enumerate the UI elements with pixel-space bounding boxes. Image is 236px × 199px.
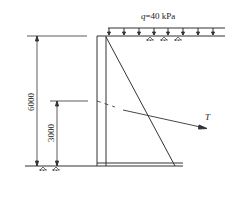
failure-plane-line <box>106 37 175 166</box>
dimension-anchor-height: 3000 <box>46 101 88 166</box>
load-label: q=40 kPa <box>141 11 175 21</box>
base-line <box>25 163 183 171</box>
soil-hatch-icon <box>39 167 60 171</box>
diagram-canvas: q=40 kPa <box>0 0 236 199</box>
ground-surface-top <box>97 36 225 41</box>
load-arrows <box>108 28 215 35</box>
retaining-wall <box>97 36 106 166</box>
soil-hatch-icon <box>146 37 182 41</box>
anchor-force: T <box>97 101 211 129</box>
surcharge-load: q=40 kPa <box>108 11 226 35</box>
dimension-anchor-label: 3000 <box>46 124 56 143</box>
anchor-force-label: T <box>205 112 211 122</box>
load-value: 40 kPa <box>151 11 176 21</box>
arrowhead-icon <box>199 125 208 129</box>
dimension-total-label: 6000 <box>26 93 36 112</box>
